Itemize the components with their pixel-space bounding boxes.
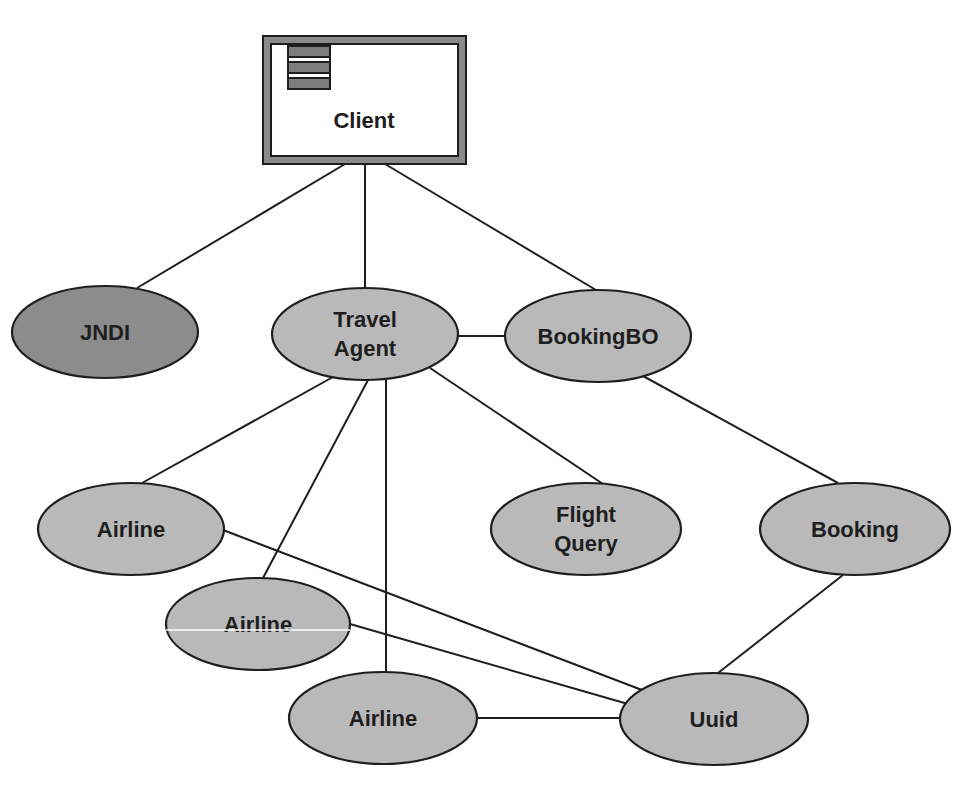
node-label-uuid: Uuid [690,707,739,732]
client-label: Client [333,108,395,133]
edge-travel-agent-to-airline-2 [263,380,368,578]
node-bookingbo: BookingBO [505,290,691,382]
architecture-diagram: Client JNDITravelAgentBookingBOAirlineFl… [0,0,975,806]
node-airline-2: Airline [166,578,350,670]
edge-travel-agent-to-flight-query [430,368,603,484]
node-jndi: JNDI [12,286,198,378]
node-travel-agent: TravelAgent [272,288,458,380]
edge-booking-to-uuid [718,575,843,673]
node-label-travel-agent: Travel [333,307,397,332]
client-node: Client [262,35,467,165]
node-label-airline-1: Airline [97,517,165,542]
node-uuid: Uuid [620,673,808,765]
node-label-airline-3: Airline [349,706,417,731]
node-booking: Booking [760,483,950,575]
nodes-layer: JNDITravelAgentBookingBOAirlineFlightQue… [12,286,950,765]
window-list-icon [287,45,331,90]
edge-travel-agent-to-airline-1 [142,377,333,483]
edge-client-to-bookingbo [385,164,596,290]
node-label-booking: Booking [811,517,899,542]
node-label-jndi: JNDI [80,320,130,345]
node-ellipse-flight-query [491,483,681,575]
node-label-bookingbo: BookingBO [538,324,659,349]
edge-bookingbo-to-booking [643,376,838,483]
node-airline-3: Airline [289,672,477,764]
node-flight-query: FlightQuery [491,483,681,575]
edge-client-to-jndi [137,164,345,288]
node-label-flight-query: Flight [556,502,617,527]
node-label-airline-2: Airline [224,612,292,637]
node-airline-1: Airline [38,483,224,575]
node-ellipse-travel-agent [272,288,458,380]
node-label-flight-query: Query [554,531,618,556]
node-label-travel-agent: Agent [334,336,397,361]
